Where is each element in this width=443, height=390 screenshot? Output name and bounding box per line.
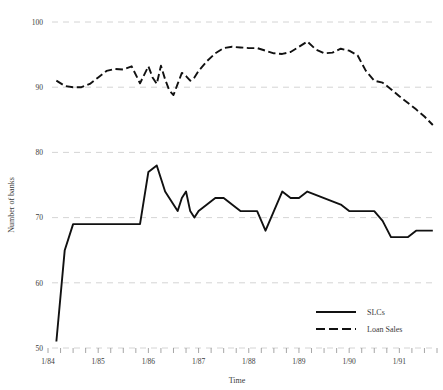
y-tick-label-70: 70 — [36, 213, 44, 222]
legend-label-loan-sales: Loan Sales — [367, 325, 402, 334]
line-chart: 5060708090100 1/841/851/861/871/881/891/… — [0, 0, 443, 390]
legend-label-slcs: SLCs — [367, 308, 385, 317]
x-axis-tick-marks — [48, 348, 437, 353]
x-axis-tick-labels: 1/841/851/861/871/881/891/901/91 — [41, 357, 406, 366]
x-tick-label-1-89: 1/89 — [292, 357, 306, 366]
x-tick-label-1-84: 1/84 — [41, 357, 55, 366]
y-tick-label-80: 80 — [36, 148, 44, 157]
y-tick-label-60: 60 — [36, 279, 44, 288]
x-tick-label-1-85: 1/85 — [92, 357, 106, 366]
y-tick-label-50: 50 — [36, 344, 44, 353]
x-tick-label-1-91: 1/91 — [393, 357, 407, 366]
x-tick-label-1-88: 1/88 — [242, 357, 256, 366]
y-axis-tick-labels: 5060708090100 — [32, 18, 44, 353]
x-tick-label-1-87: 1/87 — [192, 357, 206, 366]
x-tick-label-1-90: 1/90 — [342, 357, 356, 366]
y-axis-title: Number of banks — [7, 177, 16, 233]
chart-container: 5060708090100 1/841/851/861/871/881/891/… — [0, 0, 443, 390]
x-tick-label-1-86: 1/86 — [142, 357, 156, 366]
chart-legend: SLCs Loan Sales — [316, 308, 402, 334]
series-loan-sales — [56, 42, 432, 125]
x-axis-title: Time — [229, 376, 246, 385]
y-tick-label-90: 90 — [36, 83, 44, 92]
series-group — [56, 42, 432, 342]
y-tick-label-100: 100 — [32, 18, 44, 27]
